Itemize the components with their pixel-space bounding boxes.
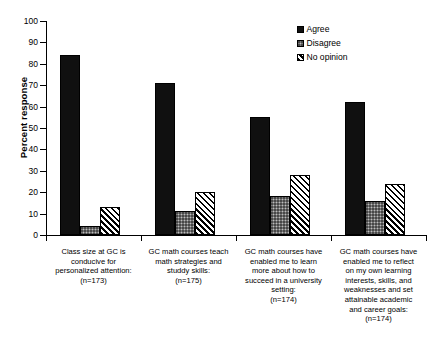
- bar-disagree-group-3: [270, 196, 290, 235]
- x-axis-label-line: Class size at GC is: [42, 247, 145, 257]
- x-axis-tick: [236, 236, 237, 241]
- x-axis-label-line: (n=173): [42, 276, 145, 286]
- x-axis-category-label-4: GC math courses haveenabled me to reflec…: [327, 247, 430, 324]
- x-axis-label-line: and career goals:: [327, 305, 430, 315]
- x-axis-tick: [141, 236, 142, 241]
- legend-label-no-opinion: No opinion: [307, 52, 348, 64]
- y-axis-tick-label: 60: [16, 103, 38, 112]
- bar-no-opinion-group-2: [195, 192, 215, 235]
- x-axis-category-label-3: GC math courses haveenabled me to learnm…: [232, 247, 335, 305]
- y-axis-tick-label: 20: [16, 188, 38, 197]
- legend-item-disagree: Disagree: [297, 38, 348, 50]
- y-axis-tick-label: 70: [16, 81, 38, 90]
- x-axis-tick: [331, 236, 332, 241]
- y-axis-tick-label: 80: [16, 60, 38, 69]
- legend-swatch-no-opinion-icon: [297, 54, 304, 61]
- x-axis-label-line: succeed in a university: [232, 276, 335, 286]
- x-axis-label-line: studdy skills:: [137, 266, 240, 276]
- x-axis-label-line: conducive for: [42, 257, 145, 267]
- bar-disagree-group-1: [80, 226, 100, 235]
- x-axis-label-line: more about how to: [232, 266, 335, 276]
- legend: Agree Disagree No opinion: [297, 24, 348, 65]
- bar-agree-group-3: [250, 117, 270, 235]
- bar-disagree-group-4: [365, 201, 385, 235]
- x-axis-category-label-1: Class size at GC isconducive forpersonal…: [42, 247, 145, 285]
- x-axis-label-line: (n=175): [137, 276, 240, 286]
- x-axis-label-line: (n=174): [232, 295, 335, 305]
- y-axis-tick-label: 30: [16, 167, 38, 176]
- x-axis-label-line: personalized attention:: [42, 266, 145, 276]
- x-axis-label-line: attainable academic: [327, 295, 430, 305]
- bar-no-opinion-group-4: [385, 184, 405, 235]
- bar-agree-group-1: [60, 55, 80, 235]
- x-axis-label-line: enabled me to learn: [232, 257, 335, 267]
- y-axis-tick-label: 10: [16, 210, 38, 219]
- bar-no-opinion-group-1: [100, 207, 120, 235]
- plot-area: [46, 21, 426, 235]
- x-axis-category-label-2: GC math courses teachmath strategies and…: [137, 247, 240, 285]
- bar-disagree-group-2: [175, 211, 195, 235]
- bar-agree-group-2: [155, 83, 175, 235]
- y-axis-tick-label: 50: [16, 124, 38, 133]
- bar-chart: Percent response 0102030405060708090100 …: [0, 0, 434, 346]
- x-axis-tick: [426, 236, 427, 241]
- x-axis-label-line: enabled me to reflect: [327, 257, 430, 267]
- y-axis-tick-label: 40: [16, 145, 38, 154]
- legend-item-no-opinion: No opinion: [297, 52, 348, 64]
- x-axis-label-line: GC math courses have: [232, 247, 335, 257]
- legend-label-agree: Agree: [307, 24, 330, 36]
- x-axis-tick: [46, 236, 47, 241]
- x-axis-label-line: on my own learning: [327, 266, 430, 276]
- bar-agree-group-4: [345, 102, 365, 235]
- x-axis-label-line: setting:: [232, 285, 335, 295]
- x-axis-label-line: GC math courses teach: [137, 247, 240, 257]
- x-axis-label-line: math strategies and: [137, 257, 240, 267]
- legend-item-agree: Agree: [297, 24, 348, 36]
- bar-no-opinion-group-3: [290, 175, 310, 235]
- legend-swatch-disagree-icon: [297, 40, 304, 47]
- y-axis-tick-label: 90: [16, 38, 38, 47]
- x-axis-label-line: GC math courses have: [327, 247, 430, 257]
- legend-label-disagree: Disagree: [307, 38, 341, 50]
- x-axis-label-line: interests, skills, and: [327, 276, 430, 286]
- y-axis-tick-label: 100: [16, 17, 38, 26]
- x-axis-label-line: weaknesses and set: [327, 285, 430, 295]
- legend-swatch-agree-icon: [297, 26, 304, 33]
- y-axis-tick-label: 0: [16, 231, 38, 240]
- y-axis-title: Percent response: [18, 53, 29, 183]
- x-axis-label-line: (n=174): [327, 314, 430, 324]
